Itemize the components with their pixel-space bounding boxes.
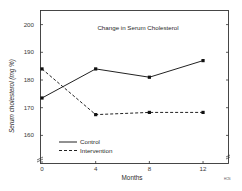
x-tick-label: 0 — [40, 165, 44, 172]
legend: Control Intervention — [59, 138, 113, 154]
series-control-marker — [148, 76, 151, 79]
figure-note: HCN — [224, 177, 231, 181]
chart-title: Change in Serum Cholesterol — [97, 24, 178, 31]
series-intervention-marker — [201, 111, 204, 114]
x-axis-label: Months — [122, 174, 143, 181]
legend-intervention-label: Intervention — [80, 147, 113, 154]
series-control-marker — [40, 96, 43, 99]
y-tick-label: 170 — [24, 104, 35, 111]
series-intervention-marker — [148, 111, 151, 114]
series-layer — [40, 59, 204, 116]
y-tick-label: 200 — [24, 21, 35, 28]
x-axis: 04812 — [40, 161, 207, 172]
x-tick-label: 12 — [200, 165, 207, 172]
line-chart: Change in Serum Cholesterol 160170180190… — [0, 0, 242, 191]
y-tick-label: 190 — [24, 48, 35, 55]
series-control-line — [42, 61, 203, 98]
y-axis-label: Serum cholesterol (mg %) — [8, 59, 16, 133]
x-tick-label: 4 — [94, 165, 98, 172]
legend-control-label: Control — [80, 138, 100, 145]
y-tick-label: 180 — [24, 76, 35, 83]
series-intervention-marker — [94, 113, 97, 116]
x-tick-label: 8 — [148, 165, 152, 172]
plot-frame — [41, 11, 229, 164]
series-control-marker — [201, 59, 204, 62]
axis-break-icon — [37, 155, 230, 162]
series-intervention-marker — [40, 67, 43, 70]
y-tick-label: 160 — [24, 131, 35, 138]
series-control-marker — [94, 67, 97, 70]
series-intervention-line — [42, 69, 203, 115]
